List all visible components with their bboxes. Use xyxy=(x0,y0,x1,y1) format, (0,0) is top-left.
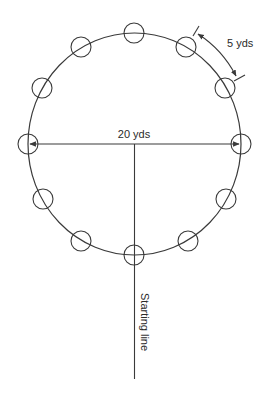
running-track-diagram: 20 yds Starting line 5 yds xyxy=(0,0,272,396)
marker-circle xyxy=(33,189,53,209)
marker-circle xyxy=(178,231,198,251)
starting-line-label: Starting line xyxy=(139,293,151,351)
marker-circle xyxy=(71,37,91,57)
marker-circle xyxy=(71,231,91,251)
marker-circle xyxy=(216,189,236,209)
marker-circle xyxy=(215,78,235,98)
spacing-label: 5 yds xyxy=(227,37,254,49)
diameter-label: 20 yds xyxy=(118,128,151,140)
